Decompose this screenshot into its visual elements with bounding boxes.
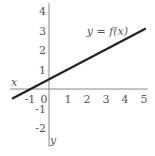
y-tick-label: 1 [39,64,46,77]
x-tick-label: -1 [25,93,36,106]
x-axis-label: x [11,76,18,89]
y-axis-label: y [49,134,57,147]
x-tick-label: 2 [84,93,91,106]
y-tick-label: 4 [39,5,46,18]
y-tick-label: -1 [35,103,46,116]
y-tick-label: 3 [39,25,46,38]
y-tick-label: -2 [35,122,46,135]
curve-label: y = f(x) [86,25,128,38]
function-graph: -1012345-2-11234 y = f(x) x y [0,0,155,156]
curve-line [12,29,146,99]
x-tick-label: 1 [65,93,72,106]
x-tick-label: 3 [103,93,110,106]
y-tick-label: 2 [39,44,46,57]
x-tick-label: 5 [141,93,148,106]
x-tick-label: 4 [122,93,129,106]
